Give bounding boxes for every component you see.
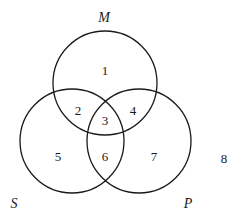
- region-7: 7: [151, 149, 158, 164]
- set-label-m: M: [97, 10, 111, 25]
- set-circle-s: [20, 89, 124, 193]
- set-label-s: S: [11, 196, 18, 211]
- region-8-outside: 8: [221, 151, 228, 166]
- region-5: 5: [55, 149, 62, 164]
- region-2: 2: [75, 103, 82, 118]
- set-circle-p: [87, 89, 191, 193]
- region-1: 1: [102, 63, 109, 78]
- region-3: 3: [102, 113, 109, 128]
- venn-diagram: M S P 1 2 3 4 5 6 7 8: [0, 0, 241, 216]
- set-label-p: P: [183, 196, 193, 211]
- region-4: 4: [130, 103, 137, 118]
- region-6: 6: [102, 149, 109, 164]
